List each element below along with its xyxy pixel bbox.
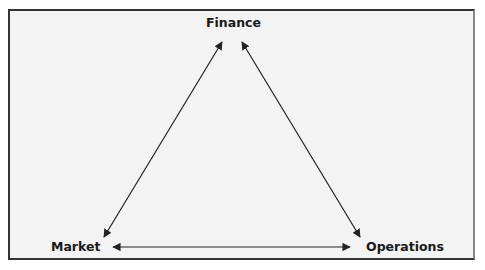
node-market: Market — [51, 239, 100, 254]
arrow-finance-operations — [242, 42, 360, 237]
arrow-market-finance — [104, 42, 222, 237]
node-finance: Finance — [206, 15, 261, 30]
node-operations: Operations — [366, 239, 444, 254]
arrows-layer — [0, 0, 485, 270]
